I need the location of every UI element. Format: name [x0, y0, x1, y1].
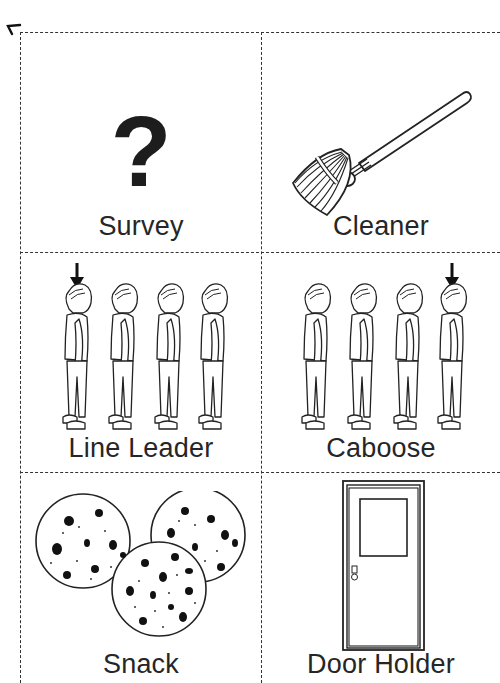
- question-mark-icon: ?: [21, 101, 261, 201]
- card-line-leader: Line Leader: [21, 253, 261, 472]
- card-cleaner: Cleaner: [262, 33, 500, 252]
- card-label-survey: Survey: [21, 211, 261, 242]
- card-snack: Snack: [21, 473, 261, 683]
- job-cards-page: ? Survey Cleaner: [0, 0, 500, 683]
- card-caboose: Caboose: [262, 253, 500, 472]
- card-door-holder: Door Holder: [262, 473, 500, 683]
- line-of-children-icon: [290, 263, 490, 435]
- card-survey: ? Survey: [21, 33, 261, 252]
- card-label-caboose: Caboose: [262, 433, 500, 464]
- card-label-line-leader: Line Leader: [21, 433, 261, 464]
- card-label-snack: Snack: [21, 649, 261, 680]
- line-of-children-icon: [51, 263, 251, 435]
- card-label-door-holder: Door Holder: [262, 649, 500, 680]
- card-label-cleaner: Cleaner: [262, 211, 500, 242]
- broom-icon: [287, 63, 477, 223]
- cookies-icon: [35, 491, 250, 641]
- door-icon: [342, 480, 426, 652]
